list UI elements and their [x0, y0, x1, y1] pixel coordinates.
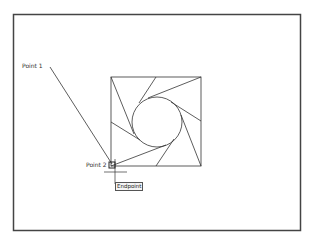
blade-line: [148, 77, 201, 98]
outer-square: [111, 77, 201, 166]
blade-line: [181, 115, 201, 166]
drawing-canvas[interactable]: [0, 0, 314, 243]
shutter-drawing: [111, 77, 201, 166]
viewport-frame: [14, 15, 301, 231]
point-1-label: Point 1: [22, 63, 43, 69]
leader-line: [50, 67, 112, 164]
point-2-label: Point 2: [86, 162, 107, 168]
blade-line: [156, 139, 174, 166]
blade-line: [111, 122, 140, 140]
blade-line: [171, 102, 201, 121]
blade-line: [111, 77, 134, 134]
endpoint-snap-tooltip: Endpoint: [115, 182, 143, 191]
